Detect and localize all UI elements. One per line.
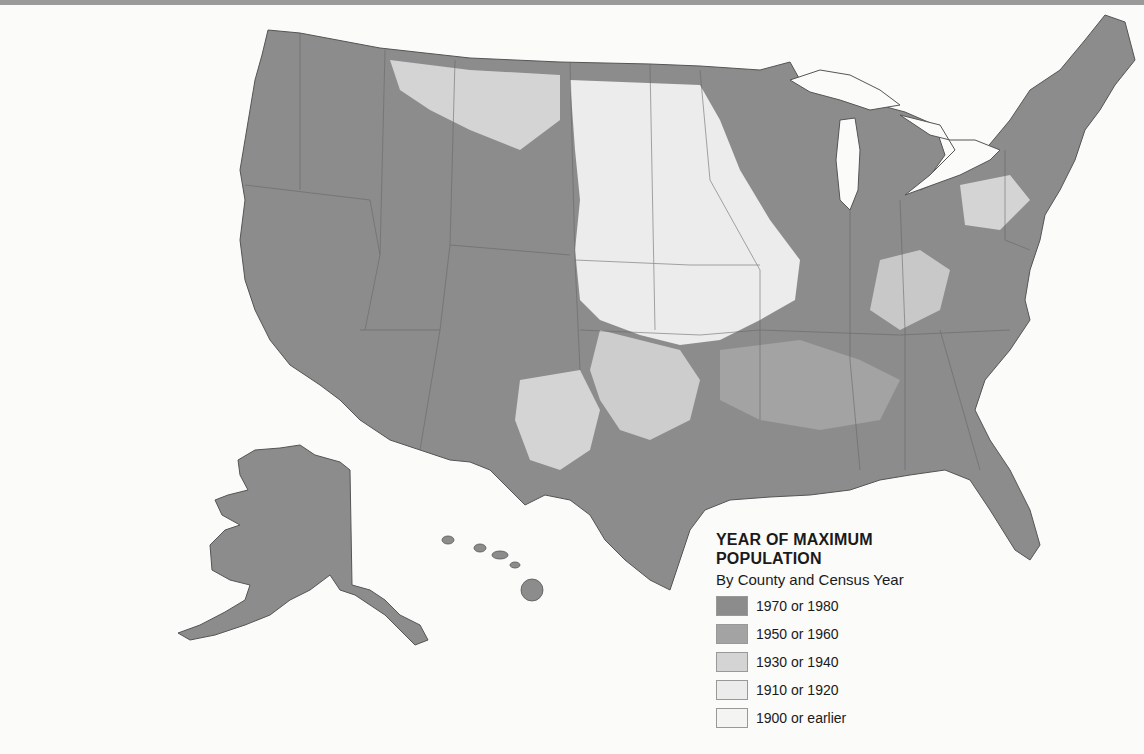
legend-item: 1950 or 1960 <box>716 620 956 648</box>
legend-item: 1930 or 1940 <box>716 648 956 676</box>
map-legend: YEAR OF MAXIMUM POPULATION By County and… <box>716 530 956 732</box>
legend-label: 1950 or 1960 <box>756 626 839 642</box>
hawaii <box>442 536 543 601</box>
legend-title-line2: POPULATION <box>716 549 956 568</box>
legend-label: 1900 or earlier <box>756 710 846 726</box>
legend-swatch <box>716 624 748 644</box>
legend-swatch <box>716 596 748 616</box>
alaska <box>178 445 428 645</box>
legend-title-line1: YEAR OF MAXIMUM <box>716 530 956 549</box>
legend-label: 1970 or 1980 <box>756 598 839 614</box>
legend-item: 1910 or 1920 <box>716 676 956 704</box>
legend-item: 1970 or 1980 <box>716 592 956 620</box>
legend-swatch <box>716 680 748 700</box>
legend-subtitle: By County and Census Year <box>716 571 956 588</box>
legend-item: 1900 or earlier <box>716 704 956 732</box>
choropleth-map <box>0 0 1144 754</box>
legend-swatch <box>716 652 748 672</box>
legend-label: 1930 or 1940 <box>756 654 839 670</box>
legend-label: 1910 or 1920 <box>756 682 839 698</box>
legend-swatch <box>716 708 748 728</box>
